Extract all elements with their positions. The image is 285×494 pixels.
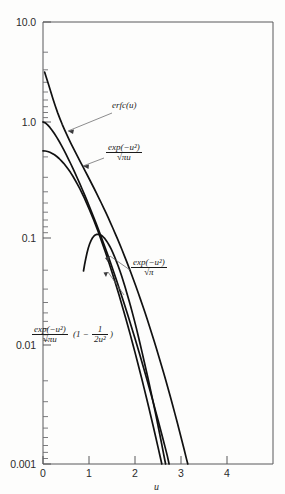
annotation-gaussian-denominator: √π [131,268,167,277]
annotation-asymptotic-denominator: √πu [32,335,68,344]
x-tick-label-2: 2 [125,467,145,479]
annotation-leader-lines [68,113,130,295]
annotation-asymptotic: exp(−u²) √πu (1 − 1 2u² ) [32,325,113,345]
y-tick-label-0-01: 0.01 [0,339,36,351]
annotation-asymptotic-factor-denominator: 2u² [92,335,108,344]
annotation-erfc-text: erfc(u) [112,100,137,110]
fraction-asymptotic-prefactor: exp(−u²) √πu [32,325,68,345]
x-tick-label-1: 1 [79,467,99,479]
y-tick-label-1: 1.0 [0,116,36,128]
figure-container: 10.0 1.0 0.1 0.01 0.001 0 1 2 3 4 u erfc… [0,0,285,494]
x-axis-title: u [154,481,159,492]
x-major-ticks [43,456,227,464]
x-tick-label-4: 4 [217,467,237,479]
annotation-erfc: erfc(u) [112,101,137,110]
annotation-gaussian: exp(−u²) √π [131,258,167,278]
fraction-asymptotic-correction: 1 2u² [92,325,108,345]
y-tick-label-10: 10.0 [0,16,36,28]
fraction-gaussian: exp(−u²) √π [131,258,167,278]
annotation-leading-term-denominator: √πu [106,153,142,162]
y-tick-label-0-001: 0.001 [0,458,36,470]
chart-canvas [0,0,285,494]
fraction-leading-term: exp(−u²) √πu [106,143,142,163]
annotation-leading-term: exp(−u²) √πu [106,143,142,163]
plot-frame [43,22,273,464]
annotation-asymptotic-factor-close: ) [110,330,113,339]
x-tick-label-3: 3 [171,467,191,479]
x-tick-label-0: 0 [33,467,53,479]
y-minor-ticks [43,52,48,458]
annotation-asymptotic-factor-open: (1 − [73,330,89,339]
y-tick-label-0-1: 0.1 [0,232,36,244]
